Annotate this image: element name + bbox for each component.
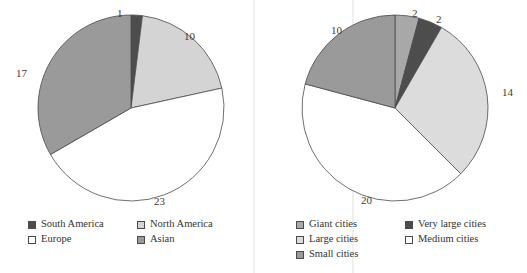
legend-label-asian: Asian xyxy=(150,234,175,245)
right-pie-svg xyxy=(264,0,527,216)
right-slice-label-large-cities: 14 xyxy=(502,87,513,98)
right-slice-label-very-large-cities: 2 xyxy=(436,14,442,25)
left-pie-svg xyxy=(0,0,263,216)
right-chart-panel: 2 2 14 20 10 Giant cities Very large cit… xyxy=(264,0,527,273)
legend-label-small-cities: Small cities xyxy=(309,249,358,260)
legend-label-south-america: South America xyxy=(41,219,104,230)
legend-swatch-asian xyxy=(137,236,145,244)
left-legend: South America North America Europe Asian xyxy=(0,217,263,269)
legend-swatch-europe xyxy=(28,236,36,244)
left-pie-chart xyxy=(0,0,263,216)
left-slice-label-south-america: 1 xyxy=(117,8,123,19)
right-pie-chart xyxy=(264,0,527,216)
left-slice-label-europe: 23 xyxy=(154,196,165,207)
legend-swatch-very-large-cities xyxy=(405,221,413,229)
right-legend: Giant cities Very large cities Large cit… xyxy=(264,217,527,269)
legend-swatch-medium-cities xyxy=(405,236,413,244)
legend-swatch-small-cities xyxy=(296,251,304,259)
right-slice-label-medium-cities: 20 xyxy=(361,195,372,206)
two-pie-chart-figure: 1 10 23 17 South America North America E… xyxy=(0,0,527,273)
legend-item-large-cities[interactable]: Large cities xyxy=(296,232,391,247)
legend-item-giant-cities[interactable]: Giant cities xyxy=(296,217,391,232)
legend-swatch-giant-cities xyxy=(296,221,304,229)
legend-swatch-south-america xyxy=(28,221,36,229)
left-chart-panel: 1 10 23 17 South America North America E… xyxy=(0,0,263,273)
legend-item-asian[interactable]: Asian xyxy=(137,232,232,247)
legend-item-north-america[interactable]: North America xyxy=(137,217,232,232)
legend-label-giant-cities: Giant cities xyxy=(309,219,357,230)
legend-item-europe[interactable]: Europe xyxy=(28,232,123,247)
left-slice-label-north-america: 10 xyxy=(184,31,195,42)
legend-item-very-large-cities[interactable]: Very large cities xyxy=(405,217,500,232)
right-slice-label-giant-cities: 2 xyxy=(412,8,418,19)
legend-swatch-large-cities xyxy=(296,236,304,244)
legend-item-medium-cities[interactable]: Medium cities xyxy=(405,232,500,247)
legend-swatch-north-america xyxy=(137,221,145,229)
legend-label-north-america: North America xyxy=(150,219,213,230)
left-slice-label-asian: 17 xyxy=(16,68,27,79)
legend-label-very-large-cities: Very large cities xyxy=(418,219,486,230)
legend-label-medium-cities: Medium cities xyxy=(418,234,478,245)
legend-item-south-america[interactable]: South America xyxy=(28,217,123,232)
right-slice-label-small-cities: 10 xyxy=(331,25,342,36)
legend-item-small-cities[interactable]: Small cities xyxy=(296,247,391,262)
legend-label-large-cities: Large cities xyxy=(309,234,358,245)
legend-label-europe: Europe xyxy=(41,234,71,245)
